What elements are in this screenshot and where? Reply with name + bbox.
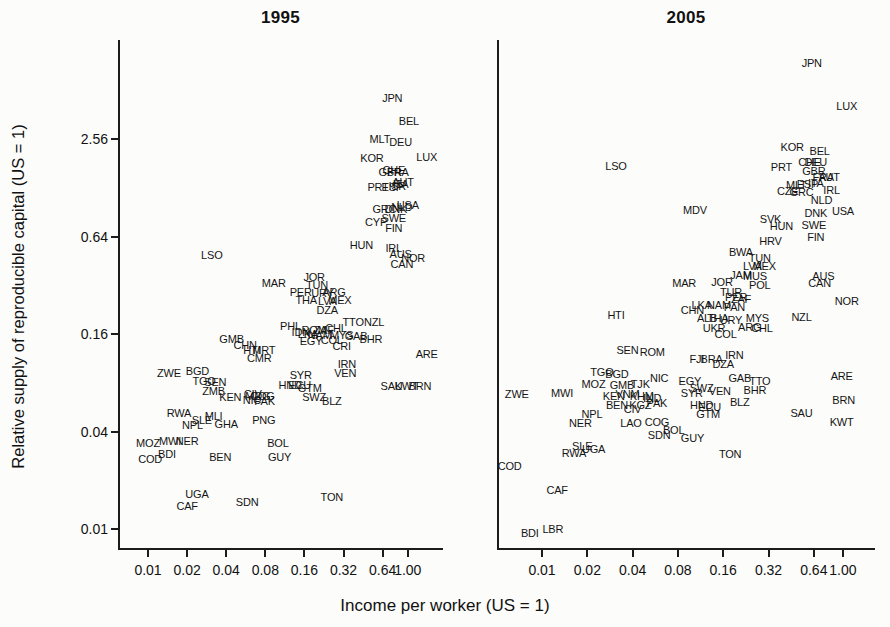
country-label-BHR: BHR xyxy=(744,385,767,396)
x-tick-mark xyxy=(842,550,844,557)
country-label-BEL: BEL xyxy=(399,116,419,127)
x-tick-label: 0.01 xyxy=(528,562,555,578)
figure: Relative supply of reproducible capital … xyxy=(0,0,890,627)
y-tick-mark xyxy=(111,431,118,433)
country-label-BEN: BEN xyxy=(209,451,231,462)
country-label-MOZ: MOZ xyxy=(136,437,160,448)
country-label-MWI: MWI xyxy=(551,388,573,399)
country-label-NER: NER xyxy=(176,435,199,446)
panel-title-2005: 2005 xyxy=(497,8,875,28)
x-tick-mark xyxy=(768,550,770,557)
country-label-ROM: ROM xyxy=(640,347,665,358)
country-label-LSO: LSO xyxy=(201,250,222,261)
country-label-MAR: MAR xyxy=(262,278,286,289)
country-label-NER: NER xyxy=(569,418,592,429)
x-tick-mark xyxy=(186,550,188,557)
country-label-UGA: UGA xyxy=(582,444,605,455)
country-label-CRI: CRI xyxy=(333,341,351,352)
country-label-BDI: BDI xyxy=(521,528,539,539)
x-tick-label: 1.00 xyxy=(394,562,421,578)
y-tick-mark xyxy=(111,333,118,335)
x-tick-mark xyxy=(382,550,384,557)
x-tick-mark xyxy=(632,550,634,557)
x-tick-label: 0.04 xyxy=(213,562,240,578)
country-label-SYR: SYR xyxy=(681,388,703,399)
x-tick-label: 1.00 xyxy=(829,562,856,578)
x-tick-mark xyxy=(225,550,227,557)
country-label-DZA: DZA xyxy=(317,305,338,316)
country-label-DZA: DZA xyxy=(712,359,733,370)
country-label-COD: COD xyxy=(138,454,162,465)
country-label-USA: USA xyxy=(832,205,854,216)
country-label-GAB: GAB xyxy=(728,373,751,384)
country-label-ZWE: ZWE xyxy=(505,389,529,400)
x-tick-mark xyxy=(541,550,543,557)
scatter-panel-2005: 0.010.020.040.080.160.320.641.00JPNLUXKO… xyxy=(497,40,875,550)
country-label-KOR: KOR xyxy=(360,153,383,164)
country-label-CAN: CAN xyxy=(808,278,831,289)
country-label-VEN: VEN xyxy=(709,386,731,397)
country-label-LAO: LAO xyxy=(620,418,641,429)
country-label-BLZ: BLZ xyxy=(322,395,342,406)
country-label-LBR: LBR xyxy=(542,524,563,535)
country-label-LSO: LSO xyxy=(605,161,626,172)
country-label-DEU: DEU xyxy=(389,137,412,148)
country-label-NOR: NOR xyxy=(835,296,859,307)
x-tick-mark xyxy=(813,550,815,557)
x-tick-label: 0.64 xyxy=(369,562,396,578)
country-label-VEN: VEN xyxy=(334,367,356,378)
country-label-JPN: JPN xyxy=(802,58,822,69)
country-label-PAN: PAN xyxy=(724,301,745,312)
country-label-MAR: MAR xyxy=(672,278,696,289)
country-label-CMR: CMR xyxy=(247,352,271,363)
country-label-KEN: KEN xyxy=(219,392,241,403)
country-label-BLZ: BLZ xyxy=(730,396,750,407)
country-label-SAU: SAU xyxy=(790,408,812,419)
y-axis-title: Relative supply of reproducible capital … xyxy=(9,67,28,527)
y-tick-label: 2.56 xyxy=(62,131,108,147)
x-tick-label: 0.08 xyxy=(252,562,279,578)
country-label-GHA: GHA xyxy=(215,419,238,430)
country-label-SDN: SDN xyxy=(236,497,259,508)
country-label-RWA: RWA xyxy=(167,408,191,419)
country-label-JPN: JPN xyxy=(382,92,402,103)
country-label-HUN: HUN xyxy=(770,221,793,232)
country-label-NZL: NZL xyxy=(791,311,811,322)
x-tick-mark xyxy=(343,550,345,557)
country-label-NIC: NIC xyxy=(650,372,668,383)
country-label-COL: COL xyxy=(715,329,737,340)
country-label-CAN: CAN xyxy=(391,259,414,270)
x-tick-mark xyxy=(147,550,149,557)
y-tick-mark xyxy=(111,236,118,238)
x-axis-title: Income per worker (US = 1) xyxy=(0,596,890,616)
x-tick-label: 0.02 xyxy=(574,562,601,578)
country-label-HUN: HUN xyxy=(350,239,373,250)
x-tick-label: 0.32 xyxy=(330,562,357,578)
country-label-MLT: MLT xyxy=(370,134,391,145)
x-tick-label: 0.02 xyxy=(173,562,200,578)
x-tick-label: 0.32 xyxy=(755,562,782,578)
country-label-CYP: CYP xyxy=(365,216,387,227)
country-label-KWT: KWT xyxy=(830,417,854,428)
y-tick-label: 0.01 xyxy=(62,521,108,537)
y-tick-label: 0.16 xyxy=(62,326,108,342)
country-label-NZL: NZL xyxy=(364,316,384,327)
x-tick-mark xyxy=(586,550,588,557)
x-tick-mark xyxy=(407,550,409,557)
country-label-ARE: ARE xyxy=(416,349,438,360)
country-label-COD: COD xyxy=(498,461,522,472)
country-label-CAF: CAF xyxy=(546,485,567,496)
country-label-SEN: SEN xyxy=(616,344,638,355)
x-tick-mark xyxy=(722,550,724,557)
y-tick-label: 0.04 xyxy=(62,424,108,440)
country-label-GUY: GUY xyxy=(268,451,291,462)
country-label-MOZ: MOZ xyxy=(582,378,606,389)
country-label-PRT: PRT xyxy=(771,161,792,172)
country-label-TON: TON xyxy=(719,449,741,460)
country-label-LUX: LUX xyxy=(416,152,437,163)
country-label-NLD: NLD xyxy=(811,195,832,206)
country-label-NPL: NPL xyxy=(182,419,203,430)
x-tick-mark xyxy=(264,550,266,557)
country-label-AUT: AUT xyxy=(392,177,413,188)
x-tick-label: 0.16 xyxy=(710,562,737,578)
